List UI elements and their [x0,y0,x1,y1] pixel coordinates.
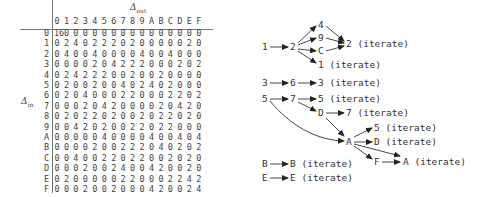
table-cell: 4 [194,132,204,142]
diagram-node: B (iterate) [290,158,353,169]
diagram-node: F [374,156,380,167]
table-cell: 2 [194,59,204,69]
difference-distribution-table: Δout Δin 0123456789ABCDEF 01600000000000… [0,0,240,197]
row-header: E [39,174,49,184]
row-header: C [39,153,49,163]
row-header: 5 [39,80,49,90]
diagram-node: 1 [262,41,268,52]
row-header: 2 [39,49,49,59]
diagram-node: A (iterate) [403,156,466,167]
diagram-node: 9 [318,32,324,43]
delta-out-axis-label: Δout [130,2,146,14]
row-header: 3 [39,59,49,69]
row-header: 7 [39,101,49,111]
diagram-node: B [262,158,268,169]
diagram-node: E (iterate) [290,172,353,183]
diagram-node: 3 (iterate) [318,77,381,88]
row-header: 4 [39,70,49,80]
diagram-node: D (iterate) [374,136,437,147]
table-cell: 2 [194,142,204,152]
diagram-node: 7 [290,93,296,104]
row-header: F [39,184,49,194]
table-cell: 0 [194,70,204,80]
row-header: D [39,163,49,173]
diagram-node: 3 [262,77,268,88]
table-cell: 0 [194,101,204,111]
diagram-node: 5 [262,93,268,104]
differential-trail-diagram: 1249C1 (iterate)2 (iterate)363 (iterate)… [240,0,484,197]
table-cell: 0 [194,111,204,121]
diagram-node: E [262,172,268,183]
diagram-node: 2 [290,41,296,52]
table-cell: 0 [194,49,204,59]
table-cell: 0 [194,80,204,90]
table-cell: 0 [194,38,204,48]
row-header: 1 [39,38,49,48]
table-cell: 2 [194,174,204,184]
diagram-node: 2 (iterate) [346,38,409,49]
delta-in-axis-label: Δin [21,96,33,108]
row-header: 8 [39,111,49,121]
table-cell: 0 [194,153,204,163]
row-header: 0 [39,28,49,38]
column-header: F [194,16,204,26]
diagram-node: D [318,107,324,118]
diagram-node: 5 (iterate) [374,122,437,133]
diagram-node: 1 (iterate) [318,59,381,70]
table-cell: 0 [194,122,204,132]
table-cell: 0 [194,28,204,38]
row-header: 6 [39,90,49,100]
diagram-node: 6 [290,77,296,88]
diagram-node: A [346,136,352,147]
table-cell: 4 [194,184,204,194]
diagram-node: 7 (iterate) [346,107,409,118]
row-header: 9 [39,122,49,132]
diagram-node: 5 (iterate) [318,93,381,104]
row-header: A [39,132,49,142]
diagram-node: 4 [318,19,324,30]
row-header: B [39,142,49,152]
table-cell: 0 [194,163,204,173]
table-cell: 2 [194,90,204,100]
diagram-node: C [318,45,324,56]
